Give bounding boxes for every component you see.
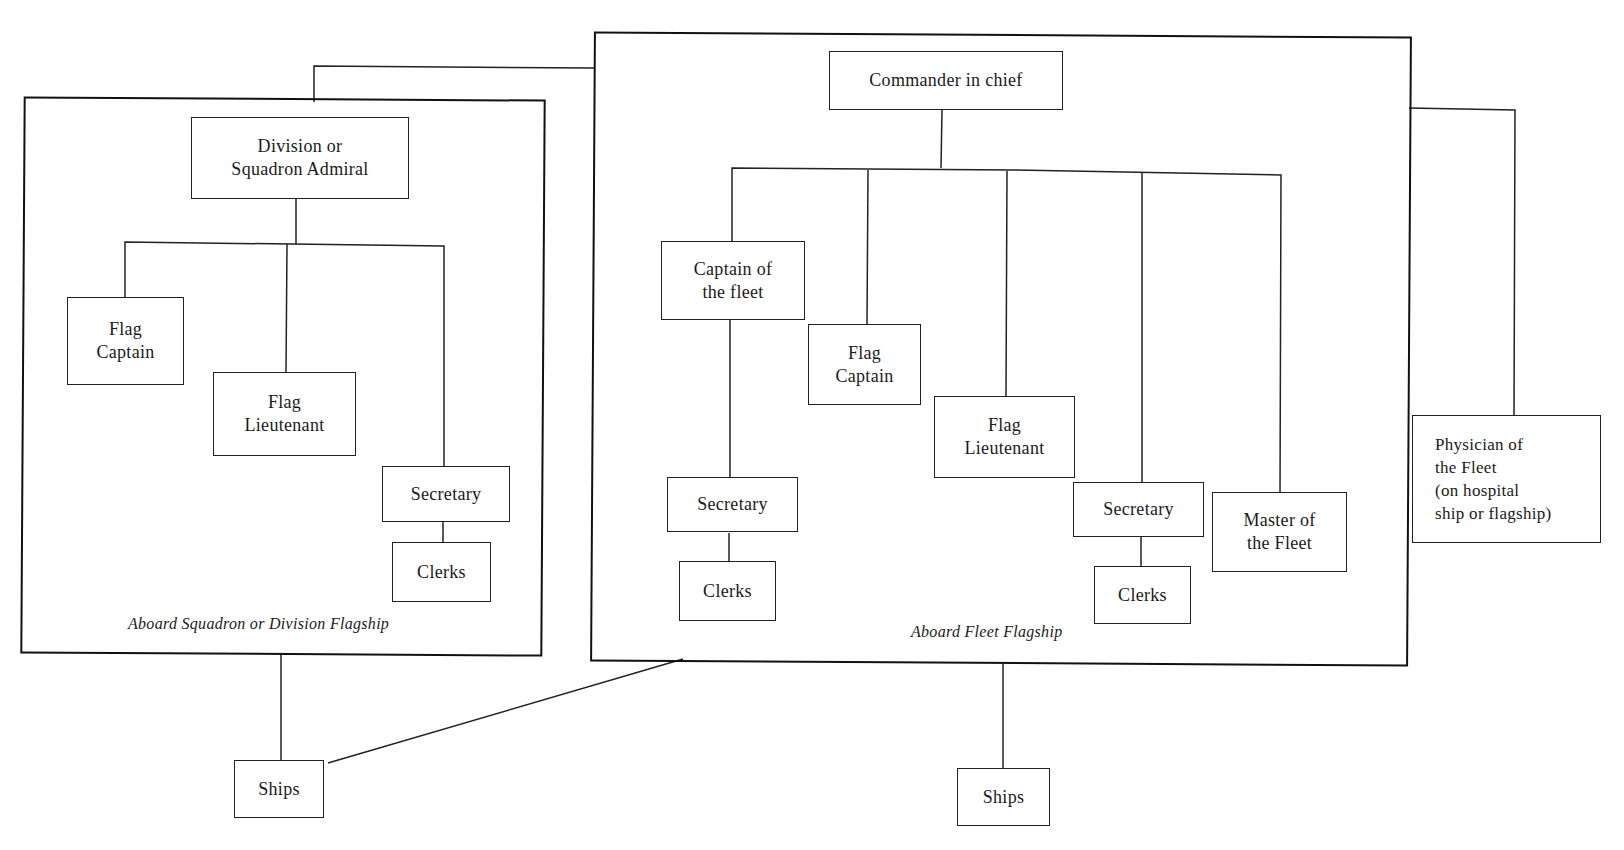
node-fleet-secretary-right[interactable]: Secretary	[1073, 482, 1204, 537]
node-fleet-flag-lieutenant[interactable]: Flag Lieutenant	[934, 396, 1075, 478]
fleet-frame-caption: Aboard Fleet Flagship	[911, 623, 1062, 641]
node-physician-of-the-fleet[interactable]: Physician of the Fleet (on hospital ship…	[1412, 415, 1601, 543]
node-commander-in-chief[interactable]: Commander in chief	[829, 51, 1063, 110]
node-fleet-ships[interactable]: Ships	[957, 768, 1050, 826]
node-squadron-admiral[interactable]: Division or Squadron Admiral	[191, 117, 409, 199]
node-squadron-flag-lieutenant[interactable]: Flag Lieutenant	[213, 372, 356, 456]
node-squadron-clerks[interactable]: Clerks	[392, 542, 491, 602]
node-fleet-flag-captain[interactable]: Flag Captain	[808, 324, 921, 405]
node-fleet-clerks-right[interactable]: Clerks	[1094, 566, 1191, 624]
node-squadron-ships[interactable]: Ships	[234, 760, 324, 818]
node-squadron-flag-captain[interactable]: Flag Captain	[67, 297, 184, 385]
node-master-of-the-fleet[interactable]: Master of the Fleet	[1212, 492, 1347, 572]
squadron-frame-caption: Aboard Squadron or Division Flagship	[128, 615, 389, 633]
node-fleet-clerks-left[interactable]: Clerks	[679, 561, 776, 621]
node-fleet-secretary-left[interactable]: Secretary	[667, 477, 798, 532]
node-captain-of-the-fleet[interactable]: Captain of the fleet	[661, 241, 805, 320]
node-squadron-secretary[interactable]: Secretary	[382, 466, 510, 522]
